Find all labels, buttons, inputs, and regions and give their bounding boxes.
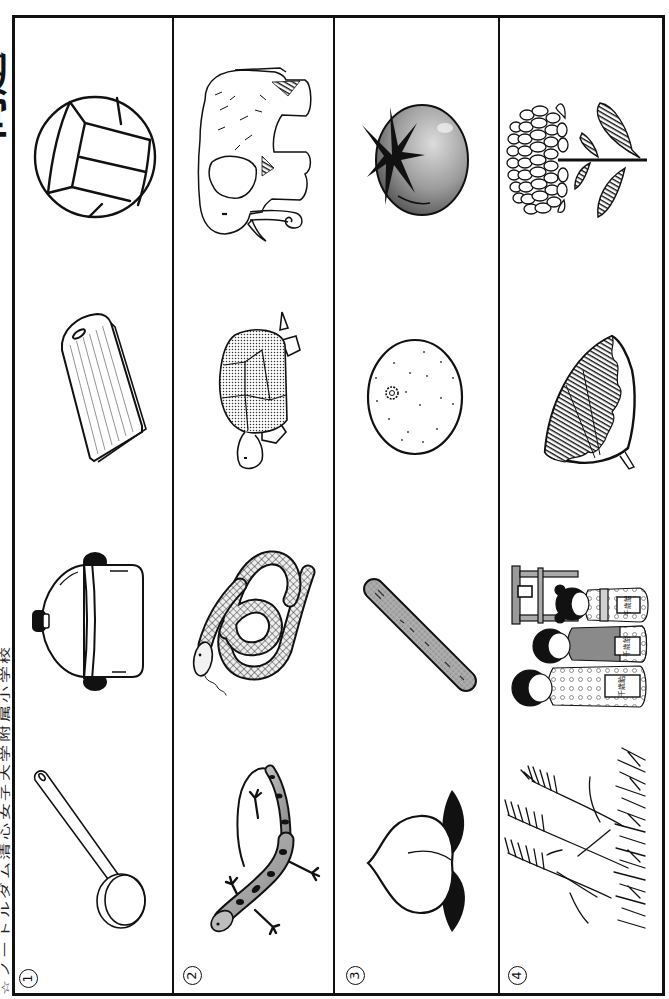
question-number-1: 1	[19, 969, 38, 988]
child-3: 千歳飴	[512, 666, 646, 707]
ladle-icon	[35, 771, 145, 928]
chrysanthemum-icon	[507, 103, 647, 217]
pot-with-lid-icon	[33, 553, 143, 690]
lizard-icon	[207, 768, 319, 935]
cutting-board-icon	[62, 314, 146, 462]
question-number-4: 4	[508, 966, 527, 985]
tomato-icon	[362, 105, 468, 215]
tortoise-icon	[220, 312, 300, 468]
chitose-ame-bag-label: 千歳飴	[622, 636, 631, 657]
susuki-pampas-grass-icon	[505, 748, 645, 928]
shichi-go-san-children-icon: 千歳飴 千歳飴 千歳飴	[512, 566, 648, 707]
ginkgo-leaf-icon	[545, 336, 635, 469]
chitose-ame-bag-label: 千歳飴	[617, 676, 626, 697]
child-2: 千歳飴	[533, 626, 647, 663]
worksheet-illustrations: 千歳飴 千歳飴 千歳飴	[0, 0, 669, 999]
chitose-ame-bag-label: 千歳飴	[623, 595, 632, 616]
question-number-2: 2	[183, 966, 202, 985]
volleyball-icon	[35, 97, 155, 217]
snake-icon	[191, 558, 308, 695]
peach-icon	[368, 790, 465, 932]
mandarin-orange-icon	[368, 340, 462, 454]
elephant-icon	[199, 68, 311, 241]
question-number-3: 3	[346, 966, 365, 985]
cucumber-icon	[360, 575, 480, 695]
child-1: 千歳飴	[555, 585, 648, 623]
